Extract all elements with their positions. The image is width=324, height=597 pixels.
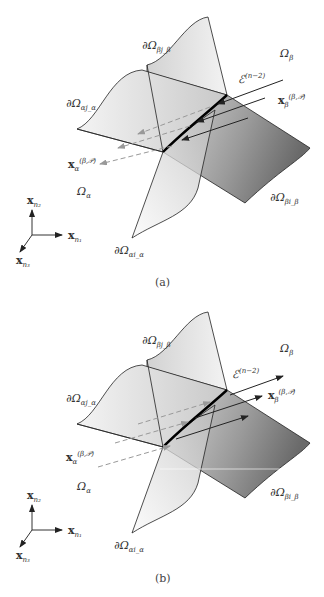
label-axis-x2: xn₂ <box>27 195 41 209</box>
label-omega-beta: Ωβ <box>280 343 293 357</box>
caption-b: (b) <box>155 572 171 585</box>
label-flow-beta: xβ(β,𝒫) <box>268 389 295 404</box>
label-boundary-alpha-left: ∂Ωαj_α <box>66 393 96 407</box>
label-boundary-beta-top: ∂Ωβj_β <box>142 40 171 54</box>
panel-a: ∂Ωβj_β Ωβ ℰ(n−2) xβ(β,𝒫) ∂Ωαj_α xα(β,𝒫) … <box>0 0 324 298</box>
label-axis-x3: xn₃ <box>16 550 30 564</box>
label-axis-x1: xn₁ <box>68 525 82 539</box>
label-boundary-alpha-bottom: ∂Ωαi_α <box>114 540 144 554</box>
label-boundary-alpha-left: ∂Ωαj_α <box>66 98 96 112</box>
panel-b: ∂Ωβj_β Ωβ ℰ(n−2) xβ(β,𝒫) ∂Ωαj_α xα(β,𝒫) … <box>0 298 324 596</box>
label-axis-x1: xn₁ <box>68 230 82 244</box>
label-flow-beta: xβ(β,𝒫) <box>278 94 305 109</box>
label-edge: ℰ(n−2) <box>232 368 259 380</box>
label-axis-x3: xn₃ <box>16 255 30 269</box>
label-edge: ℰ(n−2) <box>238 73 265 85</box>
label-boundary-beta-right: ∂Ωβi_β <box>270 192 299 206</box>
label-boundary-alpha-bottom: ∂Ωαi_α <box>114 245 144 259</box>
label-boundary-beta-right: ∂Ωβi_β <box>270 487 299 501</box>
label-omega-beta: Ωβ <box>280 48 293 62</box>
label-omega-alpha: Ωα <box>77 481 91 495</box>
label-boundary-beta-top: ∂Ωβj_β <box>142 335 171 349</box>
label-axis-x2: xn₂ <box>27 490 41 504</box>
caption-a: (a) <box>155 276 170 289</box>
label-flow-alpha: xα(β,𝒫) <box>68 158 96 173</box>
label-flow-alpha: xα(β,𝒫) <box>66 451 94 466</box>
label-omega-alpha: Ωα <box>77 186 91 200</box>
